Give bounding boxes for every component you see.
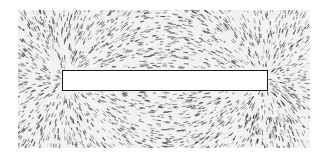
magnetic-field-photo [0,0,322,157]
bar-magnet [62,70,268,91]
